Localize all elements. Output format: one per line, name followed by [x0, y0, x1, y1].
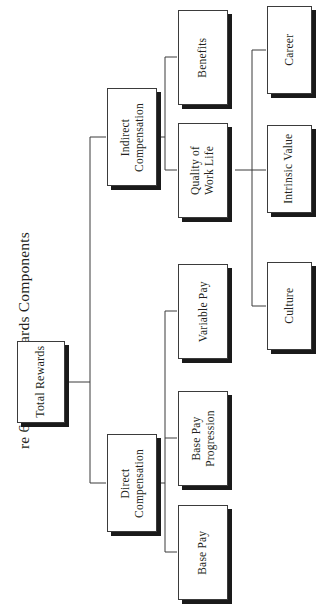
node-quality-of-work-life[interactable]: Quality of Work Life [178, 123, 228, 218]
node-face: Base Pay [178, 505, 228, 600]
node-intrinsic-value[interactable]: Intrinsic Value [267, 125, 312, 213]
node-face: Variable Pay [178, 264, 228, 359]
node-face: Quality of Work Life [178, 123, 228, 218]
node-face: Total Rewards [17, 341, 65, 423]
node-base-pay-progression[interactable]: Base Pay Progression [178, 391, 228, 486]
node-label: Culture [283, 288, 297, 324]
node-indirect-compensation[interactable]: Indirect Compensation [107, 88, 157, 186]
node-variable-pay[interactable]: Variable Pay [178, 264, 228, 359]
node-culture[interactable]: Culture [267, 262, 312, 350]
node-face: Benefits [178, 10, 228, 105]
node-direct-compensation[interactable]: Direct Compensation [107, 434, 157, 532]
node-label: Benefits [196, 38, 210, 78]
node-total-rewards[interactable]: Total Rewards [17, 341, 65, 423]
figure-total-rewards-components: re 6.1 Total Rewards Components [0, 0, 318, 605]
node-face: Career [267, 6, 312, 94]
node-face: Culture [267, 262, 312, 350]
node-face: Indirect Compensation [107, 88, 157, 186]
node-label: Indirect Compensation [119, 103, 146, 172]
node-career[interactable]: Career [267, 6, 312, 94]
node-face: Base Pay Progression [178, 391, 228, 486]
node-label: Total Rewards [34, 346, 48, 418]
node-benefits[interactable]: Benefits [178, 10, 228, 105]
node-base-pay[interactable]: Base Pay [178, 505, 228, 600]
node-label: Intrinsic Value [283, 134, 297, 204]
node-label: Variable Pay [196, 281, 210, 342]
node-face: Intrinsic Value [267, 125, 312, 213]
node-label: Base Pay [196, 530, 210, 574]
node-label: Quality of Work Life [190, 146, 217, 195]
node-label: Base Pay Progression [190, 410, 217, 467]
node-face: Direct Compensation [107, 434, 157, 532]
node-label: Career [283, 34, 297, 66]
node-label: Direct Compensation [119, 449, 146, 518]
